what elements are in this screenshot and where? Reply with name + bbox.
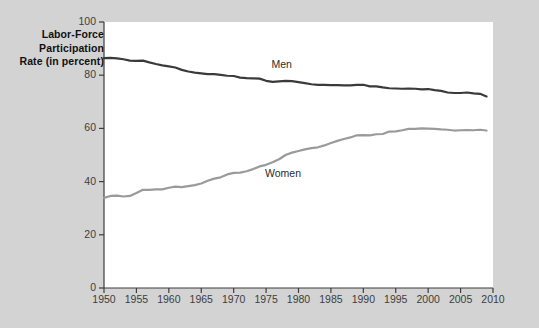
labor-force-participation-chart: Labor-Force Participation Rate (in perce… — [0, 0, 539, 328]
chart-svg — [0, 0, 539, 328]
series-label-men: Men — [272, 58, 292, 70]
series-label-women: Women — [265, 167, 301, 179]
series-line-women — [104, 128, 487, 197]
series-line-men — [104, 58, 487, 97]
